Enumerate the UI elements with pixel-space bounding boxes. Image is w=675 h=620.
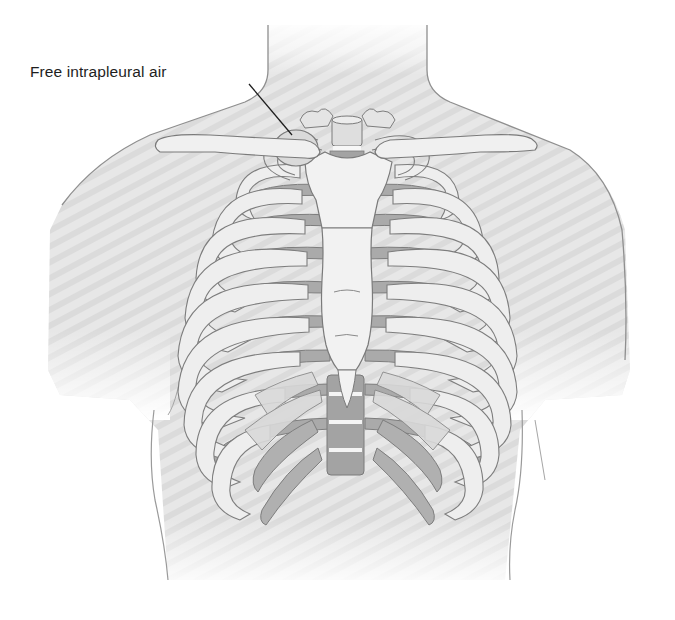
- chest-anatomy-illustration: [0, 0, 675, 620]
- annotation-free-intrapleural-air: Free intrapleural air: [30, 63, 167, 81]
